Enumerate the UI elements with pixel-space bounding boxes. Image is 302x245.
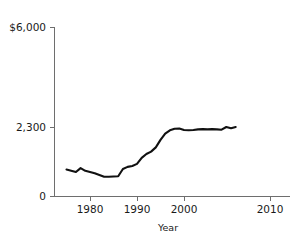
x-tick-label-2010: 2010: [257, 203, 284, 215]
y-tick-label-2300: 2,300: [16, 121, 46, 133]
x-tick-label-2000: 2000: [171, 203, 198, 215]
x-tick-label-1990: 1990: [124, 203, 151, 215]
y-tick-label-0: 0: [39, 190, 46, 202]
y-tick-label-6000: $6,000: [9, 21, 46, 33]
x-axis-title: Year: [157, 222, 178, 233]
x-tick-label-1980: 1980: [77, 203, 104, 215]
chart-canvas: $6,000 2,300 0 1980 1990 2000 2010 Year: [0, 0, 302, 245]
line-chart: $6,000 2,300 0 1980 1990 2000 2010 Year: [0, 0, 302, 245]
